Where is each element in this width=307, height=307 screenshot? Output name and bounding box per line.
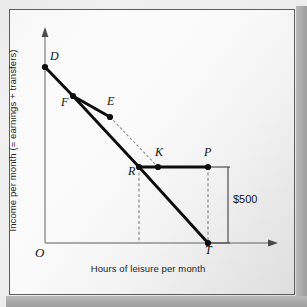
bracket-500-group [208,167,230,243]
origin-label: O [35,245,44,261]
x-axis-label: Hours of leisure per month [91,263,206,274]
point-marker-k [155,164,161,170]
point-label-t: T [205,243,212,258]
axis-group [42,27,278,246]
y-axis-label-text: Income per month (= earnings + transfers… [7,49,18,231]
x-axis-arrow-icon [268,240,278,247]
y-axis-label: Income per month (= earnings + transfers… [7,49,18,231]
transfer-amount-label: $500 [233,193,257,205]
x-axis-label-text: Hours of leisure per month [91,263,206,274]
point-label-f: F [61,95,68,110]
point-marker-d [42,64,48,70]
point-marker-f [70,93,76,99]
point-marker-p [205,164,211,170]
point-label-e: E [107,94,114,109]
y-axis-arrow-icon [42,27,49,37]
dashed-lines-group [110,117,208,243]
point-label-p: P [204,145,211,160]
budget-line-d-to-t [45,67,208,243]
point-label-d: D [50,49,59,64]
figure-root: D F E R K P T O $500 Income per month (=… [0,0,307,307]
budget-line-chart [0,0,307,307]
point-label-r: R [128,164,135,179]
point-marker-r [136,164,142,170]
point-label-k: K [155,145,163,160]
point-marker-e [107,114,113,120]
